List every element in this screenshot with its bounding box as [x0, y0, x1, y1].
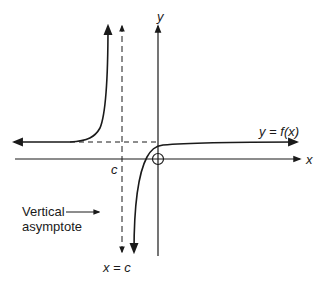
c-tick-label: c — [111, 162, 118, 177]
function-label: y = f(x) — [258, 124, 299, 139]
asymptote-equation-label: x = c — [102, 260, 131, 275]
asymptote-diagram: y x y = f(x) c x = c Vertical asymptote — [0, 0, 328, 283]
annotation-line2: asymptote — [22, 219, 82, 234]
annotation-line1: Vertical — [22, 204, 65, 219]
x-axis-label: x — [305, 152, 313, 167]
left-branch — [14, 26, 108, 142]
y-axis-label: y — [156, 9, 165, 24]
